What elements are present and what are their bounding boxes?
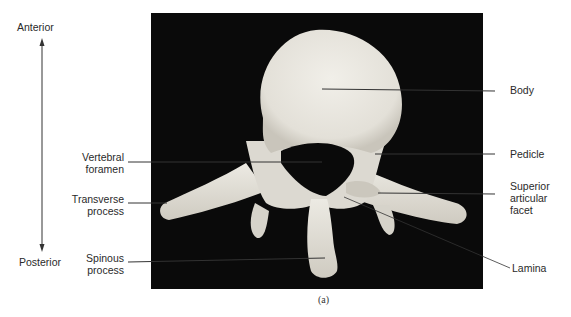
label-pedicle: Pedicle [510, 148, 544, 160]
label-line: Superior [510, 180, 550, 192]
label-line: foramen [60, 163, 124, 175]
label-body: Body [510, 84, 534, 96]
label-lamina: Lamina [512, 262, 546, 274]
label-spinous-process: Spinous process [60, 252, 124, 276]
label-line: Transverse [60, 193, 124, 205]
figure-caption: (a) [318, 294, 329, 305]
label-vertebral-foramen: Vertebral foramen [60, 151, 124, 175]
label-line: Pedicle [510, 148, 544, 160]
label-transverse-process: Transverse process [60, 193, 124, 217]
label-line: Vertebral [60, 151, 124, 163]
label-line: process [60, 264, 124, 276]
label-superior-articular-facet: Superior articular facet [510, 180, 550, 216]
label-line: facet [510, 204, 550, 216]
label-line: articular [510, 192, 550, 204]
label-line: process [60, 205, 124, 217]
label-line: Body [510, 84, 534, 96]
label-line: Lamina [512, 262, 546, 274]
label-line: Spinous [60, 252, 124, 264]
